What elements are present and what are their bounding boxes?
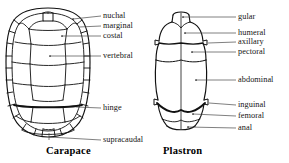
plastron-gular-left-edge [172,15,173,22]
plastron-label-pectoral: pectoral [238,47,265,56]
carapace-vertebral-seam-4 [31,85,65,87]
plastron-pectoral-left-wall [156,43,159,60]
leader-anal [188,127,236,128]
carapace-label-nuchal: nuchal [103,11,125,20]
carapace-vertebral-seam-5 [33,100,63,102]
carapace-posterior-seam-right [63,107,65,122]
carapace-costal-seam-right-2 [66,62,84,64]
carapace-seam-top-left [29,21,43,29]
plastron-pectoral-right-wall [203,43,206,60]
carapace-seam-shoulder-right [67,23,77,29]
carapace-label-supracaudal: supracaudal [103,135,143,144]
carapace-costal-seam-right-3 [65,83,83,85]
plastron-label-inguinal: inguinal [238,100,266,109]
carapace-marginal-divider-l2 [9,31,15,33]
carapace-label-dots [49,18,74,57]
carapace-label-vertebral: vertebral [103,51,133,60]
plastron-gular-right-edge [189,15,190,22]
plastron-humeral-outline-right [190,22,203,41]
leader-axillary [208,42,236,43]
leader-femoral [193,114,236,116]
leader-inguinal [209,103,236,105]
turtle-shell-anatomy-figure: nuchal marginal costal vertebral hinge s… [0,0,289,163]
carapace-drawing [6,8,90,137]
leader-nuchal [73,16,101,19]
carapace-label-hinge: hinge [103,103,122,112]
carapace-supracaudal-seam [43,129,54,130]
plastron-label-anal: anal [238,123,252,132]
plastron-humeral-outline [159,22,172,41]
carapace-marginal-divider-l3 [7,43,13,44]
plastron-label-femoral: femoral [238,111,264,120]
carapace-marginal-divider-l1 [14,20,19,24]
carapace-leader-lines [49,16,101,140]
carapace-marginal-divider-r2 [81,31,87,33]
leader-supracaudal [49,137,101,140]
carapace-label-marginal: marginal [103,21,133,30]
carapace-seam-shoulder-left [19,23,29,29]
carapace-label-costal: costal [103,31,123,40]
plastron-drawing [154,12,208,130]
carapace-vertebral-seam-2 [31,44,65,46]
carapace-marginal-divider-r3 [83,43,89,44]
caption-carapace: Carapace [46,145,91,156]
caption-plastron: Plastron [163,145,202,156]
carapace-costal-seam-left-3 [13,83,31,85]
plastron-label-abdominal: abdominal [238,75,273,84]
carapace-vertebral-seam-1 [29,29,67,31]
carapace-seam-top-right [53,21,67,29]
plastron-label-axillary: axillary [238,37,264,46]
plastron-label-gular: gular [238,12,255,21]
carapace-posterior-seam-left [31,107,33,122]
carapace-posterior-seam-mid [31,122,65,124]
carapace-nuchal-scute [43,13,53,21]
carapace-hinge-line [14,105,82,107]
carapace-costal-seam-left-2 [12,62,30,64]
carapace-posterior-seam-right-flank [65,116,80,122]
carapace-vertebral-seam-3 [30,64,66,66]
carapace-posterior-seam-left-flank [16,116,31,122]
plastron-abdominal-left-wall [155,60,158,100]
carapace-costal-seam-right-1 [65,42,81,44]
carapace-marginal-divider-r1 [77,20,82,24]
carapace-costal-seam-left-1 [15,42,31,44]
plastron-label-humeral: humeral [238,28,266,37]
leader-hinge [76,107,101,108]
leader-marginal [79,26,101,27]
